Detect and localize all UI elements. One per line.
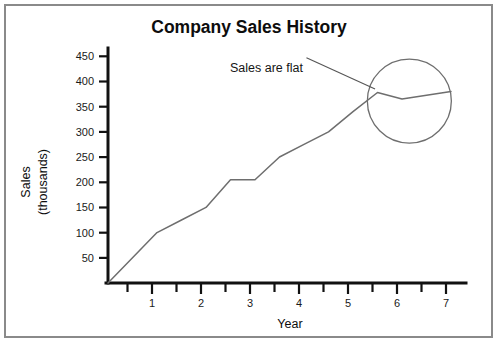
annotation-leader-line	[306, 58, 375, 89]
x-tick-label: 1	[149, 297, 155, 309]
sales-data-line	[108, 91, 451, 283]
x-axis-title: Year	[277, 317, 302, 331]
chart-stage: Company Sales History 50 100 150 200 250…	[0, 0, 499, 344]
y-axis-title-line-2: (thousands)	[36, 149, 50, 215]
magnifier-circle	[367, 59, 451, 143]
x-tick-label: 6	[394, 297, 400, 309]
sales-history-line-chart: Company Sales History 50 100 150 200 250…	[0, 0, 499, 344]
y-axis-ticks: 50 100 150 200 250 300 350 400 450	[76, 50, 108, 264]
y-tick-label: 50	[82, 252, 94, 264]
y-tick-label: 300	[76, 126, 94, 138]
x-axis-ticks: 1 2 3 4 5 6 7	[128, 283, 450, 309]
y-tick-label: 200	[76, 176, 94, 188]
x-tick-label: 4	[296, 297, 302, 309]
page-title: Company Sales History	[151, 17, 347, 37]
y-tick-label: 400	[76, 75, 94, 87]
x-tick-label: 2	[198, 297, 204, 309]
x-tick-label: 5	[345, 297, 351, 309]
y-tick-label: 450	[76, 50, 94, 62]
y-axis-title: Sales (thousands)	[19, 149, 50, 215]
annotation-label: Sales are flat	[230, 61, 303, 75]
y-axis-title-line-1: Sales	[19, 166, 33, 197]
y-tick-label: 100	[76, 227, 94, 239]
y-tick-label: 250	[76, 151, 94, 163]
y-tick-label: 350	[76, 101, 94, 113]
x-tick-label: 7	[443, 297, 449, 309]
x-tick-label: 3	[247, 297, 253, 309]
y-tick-label: 150	[76, 201, 94, 213]
